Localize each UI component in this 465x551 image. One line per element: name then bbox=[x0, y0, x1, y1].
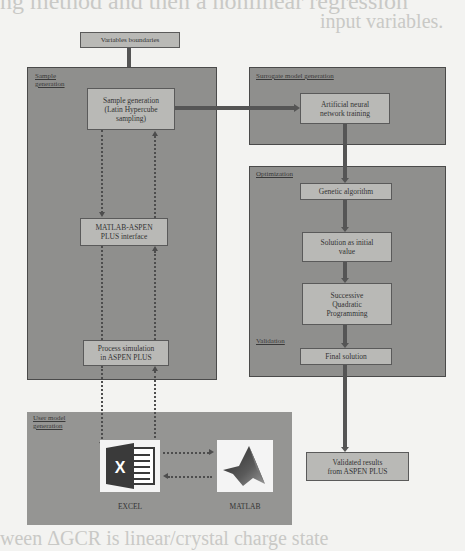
arrow-down-icon bbox=[99, 212, 105, 217]
dotted-connector bbox=[163, 452, 209, 454]
excel-glyph: X bbox=[115, 459, 126, 476]
dotted-connector bbox=[154, 251, 156, 340]
dotted-connector bbox=[101, 246, 103, 340]
optimization-label: Optimization bbox=[256, 170, 293, 178]
variables-boundaries-box: Variables boundaries bbox=[80, 32, 180, 48]
dotted-connector bbox=[101, 130, 103, 213]
excel-label: EXCEL bbox=[100, 502, 160, 511]
dotted-connector bbox=[154, 136, 156, 218]
connector-line bbox=[343, 200, 347, 227]
excel-icon: X bbox=[100, 440, 160, 492]
matlab-label: MATLAB bbox=[217, 502, 273, 511]
sample-generation-box: Sample generation (Latin Hypercube sampl… bbox=[87, 88, 175, 130]
matlab-icon bbox=[217, 440, 273, 492]
sample-generation-label: Sample generation bbox=[35, 72, 65, 88]
dotted-connector bbox=[154, 371, 156, 442]
solution-initial-value-box: Solution as initial value bbox=[302, 232, 392, 262]
surrogate-model-label: Surrogate model generation bbox=[256, 72, 334, 80]
connector-line bbox=[343, 325, 347, 343]
connector-line bbox=[175, 106, 294, 110]
process-simulation-box: Process simulation in ASPEN PLUS bbox=[83, 340, 169, 366]
user-model-label: User model generation bbox=[33, 414, 65, 430]
dotted-connector bbox=[101, 366, 103, 442]
dotted-connector bbox=[168, 476, 212, 478]
sqp-box: Successive Quadratic Programming bbox=[302, 283, 392, 325]
validation-label: Validation bbox=[256, 337, 285, 345]
background-text-line: ween ΔGCR is linear/crystal charge state bbox=[0, 527, 465, 550]
arrow-right-icon bbox=[209, 449, 214, 455]
matlab-aspen-interface-box: MATLAB-ASPEN PLUS interface bbox=[80, 218, 168, 246]
ann-training-box: Artificial neural network training bbox=[300, 93, 390, 124]
connector-line bbox=[343, 262, 347, 278]
genetic-algorithm-box: Genetic algorithm bbox=[300, 183, 392, 200]
connector-line bbox=[343, 365, 347, 447]
validated-results-box: Validated results from ASPEN PLUS bbox=[306, 452, 409, 481]
final-solution-box: Final solution bbox=[300, 348, 392, 365]
background-text-line: input variables. bbox=[320, 10, 465, 33]
connector-line bbox=[343, 124, 347, 178]
